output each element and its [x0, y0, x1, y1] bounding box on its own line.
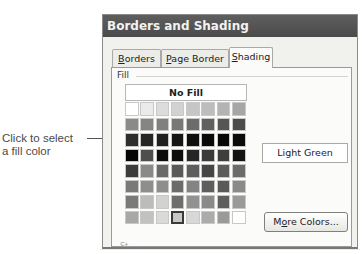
- color-swatch[interactable]: [140, 102, 154, 116]
- color-swatch[interactable]: [186, 133, 200, 147]
- color-swatch[interactable]: [156, 133, 170, 147]
- color-swatch[interactable]: [217, 211, 231, 225]
- tab-borders[interactable]: Borders: [112, 49, 161, 67]
- color-swatch[interactable]: [232, 118, 246, 132]
- tab-shading-label: hading: [238, 51, 271, 62]
- color-swatch[interactable]: [171, 164, 185, 178]
- callout-line-1: Click to select: [2, 132, 73, 145]
- color-swatch[interactable]: [186, 164, 200, 178]
- selected-color-name: Light Green: [262, 143, 348, 163]
- color-swatch[interactable]: [186, 102, 200, 116]
- fill-section-label: Fill: [117, 70, 129, 80]
- color-swatch[interactable]: [232, 180, 246, 194]
- color-swatch[interactable]: [217, 133, 231, 147]
- color-swatch[interactable]: [217, 164, 231, 178]
- color-swatch[interactable]: [171, 195, 185, 209]
- color-swatch[interactable]: [156, 195, 170, 209]
- color-swatch[interactable]: [140, 149, 154, 163]
- color-swatch[interactable]: [217, 102, 231, 116]
- color-swatch[interactable]: [156, 211, 170, 225]
- color-swatch[interactable]: [140, 118, 154, 132]
- color-swatch[interactable]: [125, 149, 139, 163]
- color-swatch[interactable]: [171, 133, 185, 147]
- color-swatch[interactable]: [232, 195, 246, 209]
- tab-page-border-label: age Border: [171, 53, 224, 64]
- more-colors-label-prefix: M: [273, 216, 281, 227]
- color-swatch[interactable]: [186, 118, 200, 132]
- callout-annotation: Click to select a fill color: [2, 132, 73, 158]
- truncated-section-label: St...: [120, 242, 136, 247]
- tab-borders-label: orders: [125, 53, 155, 64]
- color-swatch[interactable]: [232, 164, 246, 178]
- no-fill-button[interactable]: No Fill: [125, 84, 247, 101]
- more-colors-label-rest: re Colors...: [287, 216, 338, 227]
- color-swatch[interactable]: [140, 180, 154, 194]
- color-swatch[interactable]: [171, 102, 185, 116]
- shading-panel: Fill No Fill Light Green More Colors... …: [111, 67, 352, 247]
- color-swatch[interactable]: [156, 102, 170, 116]
- more-colors-button[interactable]: More Colors...: [264, 212, 348, 232]
- color-swatch[interactable]: [156, 118, 170, 132]
- color-swatch[interactable]: [201, 118, 215, 132]
- color-swatch[interactable]: [186, 180, 200, 194]
- color-swatch[interactable]: [125, 133, 139, 147]
- fill-section-divider: [136, 76, 348, 77]
- tab-page-border[interactable]: Page Border: [161, 49, 229, 67]
- color-swatch[interactable]: [125, 102, 139, 116]
- color-swatch[interactable]: [232, 149, 246, 163]
- color-swatch[interactable]: [156, 164, 170, 178]
- color-swatch[interactable]: [125, 180, 139, 194]
- color-swatch[interactable]: [171, 149, 185, 163]
- color-swatch[interactable]: [125, 195, 139, 209]
- color-swatch[interactable]: [156, 149, 170, 163]
- color-swatch[interactable]: [232, 133, 246, 147]
- color-swatch[interactable]: [140, 195, 154, 209]
- color-swatch[interactable]: [186, 211, 200, 225]
- color-swatch[interactable]: [171, 180, 185, 194]
- color-palette-grid: [125, 102, 248, 224]
- color-swatch[interactable]: [125, 118, 139, 132]
- color-swatch[interactable]: [140, 211, 154, 225]
- color-swatch[interactable]: [140, 164, 154, 178]
- borders-and-shading-dialog: Borders and Shading Borders Page Border …: [102, 14, 358, 249]
- color-swatch[interactable]: [201, 133, 215, 147]
- color-swatch[interactable]: [201, 180, 215, 194]
- color-swatch[interactable]: [201, 195, 215, 209]
- color-swatch[interactable]: [125, 164, 139, 178]
- color-swatch[interactable]: [140, 133, 154, 147]
- color-swatch[interactable]: [217, 195, 231, 209]
- color-swatch[interactable]: [125, 211, 139, 225]
- color-swatch[interactable]: [217, 118, 231, 132]
- tab-shading[interactable]: Shading: [229, 47, 273, 68]
- color-swatch[interactable]: [186, 149, 200, 163]
- callout-line-2: a fill color: [2, 145, 73, 158]
- page-divider: [100, 249, 360, 250]
- color-swatch[interactable]: [171, 118, 185, 132]
- color-swatch[interactable]: [232, 211, 246, 225]
- color-swatch[interactable]: [156, 180, 170, 194]
- color-swatch[interactable]: [217, 180, 231, 194]
- color-swatch[interactable]: [171, 211, 185, 225]
- color-swatch[interactable]: [217, 149, 231, 163]
- color-swatch[interactable]: [232, 102, 246, 116]
- color-swatch[interactable]: [186, 195, 200, 209]
- color-swatch[interactable]: [201, 102, 215, 116]
- color-swatch[interactable]: [201, 164, 215, 178]
- color-swatch[interactable]: [201, 149, 215, 163]
- color-swatch[interactable]: [201, 211, 215, 225]
- dialog-title: Borders and Shading: [103, 15, 357, 37]
